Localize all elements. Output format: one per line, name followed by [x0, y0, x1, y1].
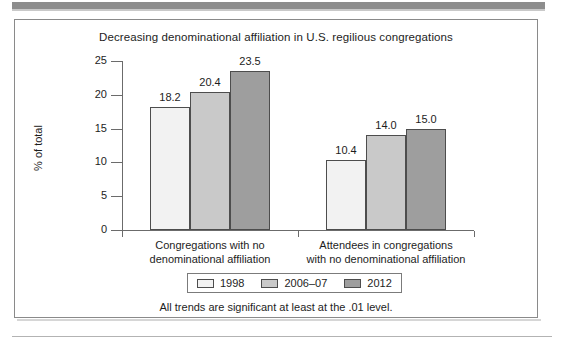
legend-swatch-icon [197, 279, 214, 288]
y-axis-tick [111, 95, 123, 96]
x-axis-group-label-line: denominational affiliation [110, 253, 310, 267]
x-axis-group-label: Attendees in congregationswith no denomi… [286, 239, 486, 266]
x-axis-group-label-line: with no denominational affiliation [286, 253, 486, 267]
y-axis-label: % of total [32, 103, 44, 193]
bar [406, 129, 446, 230]
x-axis-group-label: Congregations with nodenominational affi… [110, 239, 310, 266]
legend-swatch-icon [261, 279, 278, 288]
legend-label: 2006–07 [284, 277, 327, 289]
chart-legend: 19982006–072012 [187, 273, 402, 293]
y-axis-tick-label: 15 [77, 128, 107, 129]
y-axis-tick-label: 20 [77, 94, 107, 95]
x-axis-group-label-line: Attendees in congregations [286, 239, 486, 253]
y-axis-tick [111, 129, 123, 130]
x-axis-group-label-line: Congregations with no [110, 239, 310, 253]
legend-item[interactable]: 2006–07 [261, 277, 327, 289]
y-axis-tick [111, 61, 123, 62]
bottom-page-rule [12, 336, 552, 337]
y-axis-tick-label: 5 [77, 195, 107, 196]
bar-value-label: 20.4 [184, 76, 236, 88]
y-axis-line [122, 61, 123, 231]
bar-value-label: 15.0 [400, 113, 452, 125]
figure-card: Decreasing denominational affiliation in… [14, 19, 538, 318]
legend-label: 1998 [220, 277, 244, 289]
legend-item[interactable]: 2012 [344, 277, 391, 289]
bar [190, 92, 230, 230]
bar [150, 107, 190, 230]
y-axis-tick [111, 162, 123, 163]
legend-item[interactable]: 1998 [197, 277, 244, 289]
y-axis-tick-label: 0 [77, 229, 107, 230]
top-page-rule-shadow [12, 9, 545, 11]
x-axis-tick [298, 231, 299, 237]
bar-value-label: 10.4 [320, 144, 372, 156]
legend-swatch-icon [344, 279, 361, 288]
bar [230, 71, 270, 230]
x-axis-tick [122, 231, 123, 237]
bar [366, 135, 406, 230]
bar-chart-plot-area: % of total 0510152025 18.220.423.510.414… [15, 20, 539, 319]
x-axis-tick [474, 231, 475, 237]
y-axis-tick-label: 25 [77, 60, 107, 61]
y-axis-tick [111, 196, 123, 197]
chart-footnote: All trends are significant at least at t… [15, 301, 537, 313]
bar-value-label: 23.5 [224, 55, 276, 67]
bar-value-label: 18.2 [144, 91, 196, 103]
top-page-rule [12, 2, 545, 9]
y-axis-tick-label: 10 [77, 161, 107, 162]
bar [326, 160, 366, 230]
legend-label: 2012 [367, 277, 391, 289]
